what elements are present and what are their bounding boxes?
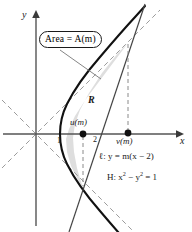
tick-label-1: 1 [57,137,61,145]
y-axis-arrow [32,10,40,18]
u-point-label: u(m) [70,118,87,127]
u-point-dot [80,131,87,138]
area-callout-box: Area = A(m) [39,31,102,48]
math-diagram: y x Area = A(m) R u(m) v(m) 1 2 ℓ: y = m… [0,0,192,232]
v-point-label: v(m) [116,137,133,146]
area-callout-label: Area = A(m) [45,34,96,44]
region-label-R: R [88,95,95,105]
hyperbola-eq-mid: − y [126,172,140,182]
hyperbola-eq-prefix: H: x [107,172,123,182]
y-axis-label: y [22,10,26,20]
hyperbola-eq-tail: = 1 [143,172,157,182]
line-equation-label: ℓ: y = m(x − 2) [99,152,154,161]
tick-label-2: 2 [93,136,97,144]
hyperbola-upper-branch [60,6,145,134]
x-axis-label: x [180,136,184,146]
hyperbola-equation-label: H: x2 − y2 = 1 [107,173,157,182]
